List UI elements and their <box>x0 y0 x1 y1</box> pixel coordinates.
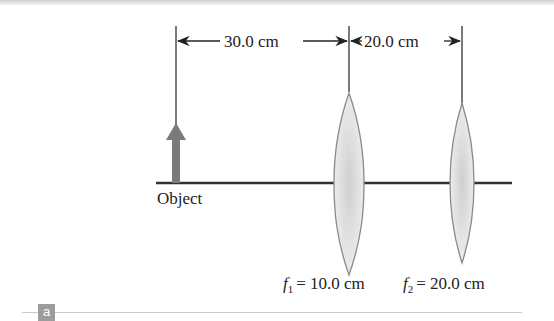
bottom-rule <box>22 312 522 313</box>
panel-label-badge: a <box>38 304 55 321</box>
lens-1 <box>334 93 364 275</box>
focal-label-2: f2= 20.0 cm <box>403 274 485 295</box>
focal-label-1: f1= 10.0 cm <box>283 274 365 295</box>
object-label: Object <box>157 189 203 208</box>
dimension-label-30cm: 30.0 cm <box>224 32 279 51</box>
dimension-label-20cm: 20.0 cm <box>364 32 419 51</box>
optics-diagram: 30.0 cm 20.0 cm Object f1= 10.0 cm f2= 2… <box>0 0 554 321</box>
lens-2 <box>450 103 474 263</box>
object-arrow <box>166 123 186 183</box>
figure: 30.0 cm 20.0 cm Object f1= 10.0 cm f2= 2… <box>0 0 554 321</box>
extension-lines <box>176 26 462 160</box>
